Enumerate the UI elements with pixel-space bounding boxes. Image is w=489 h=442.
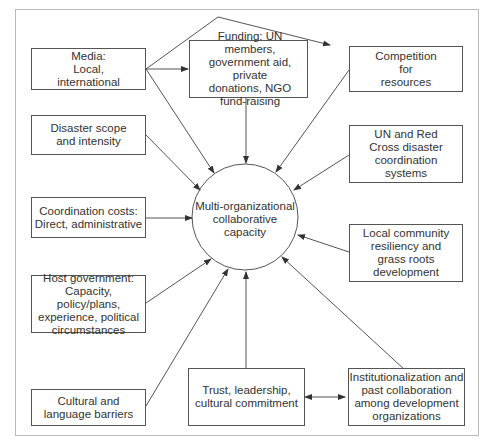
node-funding: Funding: UN members, government aid, pri… — [189, 40, 308, 98]
node-local-community: Local community resiliency and grass roo… — [349, 224, 463, 282]
center-node-label: Multi-organizational collaborative capac… — [193, 200, 297, 239]
node-competition: Competition for resources — [349, 46, 463, 92]
node-coordination-costs: Coordination costs: Direct, administrati… — [31, 197, 146, 238]
node-cultural-barriers: Cultural and language barriers — [31, 389, 146, 426]
node-un-red-cross: UN and Red Cross disaster coordination s… — [349, 125, 463, 183]
node-disaster-scope: Disaster scope and intensity — [31, 115, 146, 155]
node-trust-leadership: Trust, leadership, cultural commitment — [188, 368, 305, 426]
node-host-government: Host government: Capacity, policy/plans,… — [31, 275, 146, 333]
node-media: Media: Local, international — [31, 48, 146, 90]
node-institutionalization: Institutionalization and past collaborat… — [348, 368, 465, 426]
